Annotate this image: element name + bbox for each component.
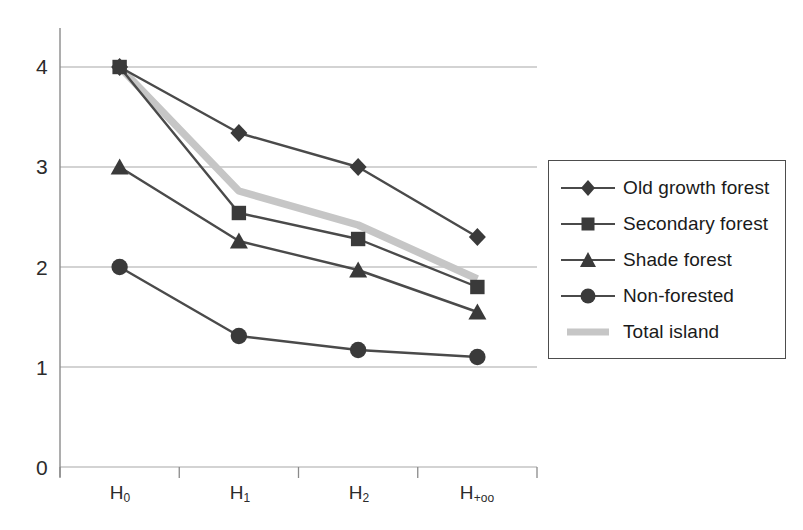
legend-swatch-square-icon — [559, 213, 617, 235]
x-tick-label-h2: H2 — [314, 482, 404, 505]
y-tick-label-4: 4 — [14, 55, 48, 79]
series-old-growth-forest — [111, 58, 486, 246]
y-tick-label-3: 3 — [14, 155, 48, 179]
data-point-marker — [230, 233, 248, 249]
legend-swatch-circle-icon — [559, 285, 617, 307]
data-point-marker — [469, 228, 486, 246]
x-tick-base-h1: H — [230, 482, 244, 503]
chart-legend: Old growth forest Secondary forest Shade… — [548, 160, 786, 359]
legend-item-total-island: Total island — [549, 314, 785, 350]
legend-label-total-island: Total island — [623, 321, 719, 343]
data-point-marker — [231, 328, 247, 344]
data-point-marker — [350, 158, 367, 176]
x-tick-sub-h0: 0 — [124, 491, 131, 505]
series-line — [120, 167, 478, 312]
legend-swatch-diamond-icon — [559, 177, 617, 199]
data-point-marker — [470, 280, 484, 294]
y-tick-label-0: 0 — [14, 456, 48, 480]
series-line — [120, 67, 478, 279]
x-tick-sub-h1: 1 — [244, 491, 251, 505]
series-total-island — [120, 67, 478, 279]
series-non-forested — [111, 259, 485, 365]
axis-lines — [60, 28, 537, 478]
y-tick-label-2: 2 — [14, 256, 48, 280]
data-point-marker — [350, 342, 366, 358]
legend-item-secondary-forest: Secondary forest — [549, 206, 785, 242]
gridlines — [60, 67, 537, 467]
data-point-marker — [111, 259, 127, 275]
legend-swatch-triangle-icon — [559, 249, 617, 271]
legend-item-old-growth-forest: Old growth forest — [549, 170, 785, 206]
x-tick-sub-h2: 2 — [363, 491, 370, 505]
x-tick-base-h2: H — [349, 482, 363, 503]
legend-label-old-growth-forest: Old growth forest — [623, 177, 769, 199]
legend-label-secondary-forest: Secondary forest — [623, 213, 768, 235]
x-tick-base-h0: H — [110, 482, 124, 503]
x-tick-label-hinf: H+oo — [432, 482, 522, 505]
data-point-marker — [468, 304, 486, 320]
y-tick-label-1: 1 — [14, 356, 48, 380]
x-tick-base-hinf: H — [460, 482, 474, 503]
series-layer — [111, 58, 487, 365]
legend-label-shade-forest: Shade forest — [623, 249, 732, 271]
legend-item-shade-forest: Shade forest — [549, 242, 785, 278]
legend-swatch-thick-line-icon — [559, 321, 617, 343]
data-point-marker — [232, 206, 246, 220]
chart-figure: 4 3 2 1 0 H0 H1 H2 H+oo Old growth fores… — [0, 0, 803, 530]
data-point-marker — [112, 60, 126, 74]
x-tick-sub-hinf: +oo — [474, 491, 494, 505]
data-point-marker — [351, 232, 365, 246]
legend-label-non-forested: Non-forested — [623, 285, 734, 307]
series-line — [120, 267, 478, 357]
x-tick-label-h1: H1 — [195, 482, 285, 505]
data-point-marker — [469, 349, 485, 365]
x-tick-label-h0: H0 — [75, 482, 165, 505]
legend-item-non-forested: Non-forested — [549, 278, 785, 314]
data-point-marker — [230, 124, 247, 142]
